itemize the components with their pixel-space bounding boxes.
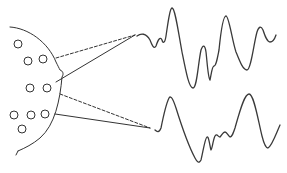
electrode-icon	[27, 111, 35, 119]
electrode-connections	[55, 35, 150, 128]
electrode-icon	[18, 125, 26, 133]
electrode-icon	[14, 40, 22, 48]
electrode-icon	[26, 84, 34, 92]
electrode-group	[10, 40, 51, 133]
top-dashed-line	[56, 35, 135, 58]
electrode-icon	[39, 55, 47, 63]
eeg-diagram: Scalp electrodes on a head outline conne…	[0, 0, 287, 173]
waveform-group	[137, 8, 280, 162]
electrode-icon	[10, 111, 18, 119]
bottom-dashed-line	[60, 94, 150, 128]
bottom-waveform	[155, 94, 280, 162]
neck-hook	[16, 151, 18, 155]
top-waveform	[137, 8, 276, 88]
diagram-canvas	[0, 0, 287, 173]
electrode-icon	[43, 84, 51, 92]
bottom-solid-line	[55, 114, 150, 128]
electrode-icon	[41, 110, 49, 118]
electrode-icon	[24, 57, 32, 65]
top-solid-line	[56, 35, 135, 82]
